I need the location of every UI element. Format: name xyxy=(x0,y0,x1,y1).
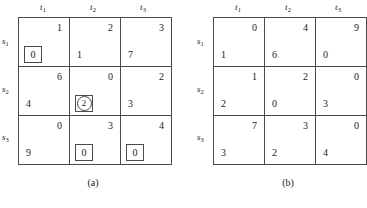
row-header-subscript: 2 xyxy=(6,88,9,95)
matrix-row: 733204 xyxy=(214,116,367,165)
matrix-row: 014690 xyxy=(214,18,367,67)
bottom-cropped-text-artifact xyxy=(6,196,186,207)
matrix-cell-b-r3c1[interactable]: 73 xyxy=(214,116,265,165)
column-header-row-a: t1t2t3 xyxy=(18,0,168,17)
cell-allocation-value: 0 xyxy=(323,49,328,61)
column-header-b-2: t2 xyxy=(263,1,313,16)
matrix-cell-a-r3c3[interactable]: 40 xyxy=(121,116,172,165)
matrix-row: 093040 xyxy=(19,116,172,165)
matrix-row: 640223 xyxy=(19,67,172,116)
cell-cost-value: 0 xyxy=(354,71,359,83)
column-header-row-b: t1t2t3 xyxy=(213,0,363,17)
matrix-cell-a-r2c1[interactable]: 64 xyxy=(19,67,70,116)
row-header-a-3: s3 xyxy=(2,113,18,161)
column-header-subscript: 3 xyxy=(143,6,146,13)
cell-cost-value: 2 xyxy=(303,71,308,83)
column-header-b-1: t1 xyxy=(213,1,263,16)
cell-cost-value: 2 xyxy=(159,71,164,83)
matrix-block-a: t1t2t3s1s2s3102137640223093040(a) xyxy=(0,0,168,162)
matrix-cell-b-r1c3[interactable]: 90 xyxy=(316,18,367,67)
matrix-cell-b-r2c3[interactable]: 03 xyxy=(316,67,367,116)
cell-allocation-value-boxed: 0 xyxy=(24,46,42,63)
cell-allocation-value-boxed: 0 xyxy=(126,144,144,161)
cell-cost-value: 0 xyxy=(108,71,113,83)
cell-allocation-value-boxed: 2 xyxy=(75,95,93,112)
row-header-column-a: s1s2s3 xyxy=(0,17,18,162)
cell-cost-value: 6 xyxy=(57,71,62,83)
row-header-b-2: s2 xyxy=(197,65,213,113)
column-header-a-2: t2 xyxy=(68,1,118,16)
cell-cost-value: 0 xyxy=(354,120,359,132)
cell-cost-value: 0 xyxy=(252,22,257,34)
circled-marker: 2 xyxy=(77,96,92,111)
matrix-cell-a-r1c3[interactable]: 37 xyxy=(121,18,172,67)
cell-allocation-value: 7 xyxy=(128,49,133,61)
cell-cost-value: 1 xyxy=(57,22,62,34)
cell-allocation-value: 4 xyxy=(323,147,328,159)
row-header-column-b: s1s2s3 xyxy=(195,17,213,162)
cell-allocation-value: 1 xyxy=(221,49,226,61)
matrix-cell-b-r1c2[interactable]: 46 xyxy=(265,18,316,67)
matrix-cell-b-r3c3[interactable]: 04 xyxy=(316,116,367,165)
column-header-a-1: t1 xyxy=(18,1,68,16)
matrix-cell-a-r2c2[interactable]: 02 xyxy=(70,67,121,116)
matrix-table-b: 014690122003733204 xyxy=(213,17,367,165)
table-caption-b: (b) xyxy=(213,176,363,189)
row-header-subscript: 3 xyxy=(6,136,9,143)
column-header-subscript: 1 xyxy=(238,6,241,13)
cell-cost-value: 4 xyxy=(303,22,308,34)
column-header-subscript: 1 xyxy=(43,6,46,13)
row-header-b-1: s1 xyxy=(197,17,213,65)
matrix-cell-b-r2c1[interactable]: 12 xyxy=(214,67,265,116)
row-header-a-2: s2 xyxy=(2,65,18,113)
row-header-subscript: 1 xyxy=(6,40,9,47)
cell-cost-value: 1 xyxy=(252,71,257,83)
matrix-cell-a-r1c2[interactable]: 21 xyxy=(70,18,121,67)
cell-cost-value: 7 xyxy=(252,120,257,132)
cell-allocation-value: 1 xyxy=(77,49,82,61)
matrix-cell-b-r3c2[interactable]: 32 xyxy=(265,116,316,165)
cell-cost-value: 3 xyxy=(303,120,308,132)
column-header-subscript: 2 xyxy=(288,6,291,13)
cell-allocation-value: 9 xyxy=(26,147,31,159)
row-header-b-3: s3 xyxy=(197,113,213,161)
table-caption-a: (a) xyxy=(18,176,168,189)
matrix-table-a: 102137640223093040 xyxy=(18,17,172,165)
matrix-cell-b-r1c1[interactable]: 01 xyxy=(214,18,265,67)
row-header-subscript: 2 xyxy=(201,88,204,95)
column-header-subscript: 2 xyxy=(93,6,96,13)
row-header-a-1: s1 xyxy=(2,17,18,65)
cell-cost-value: 0 xyxy=(57,120,62,132)
cell-allocation-value: 2 xyxy=(272,147,277,159)
column-header-b-3: t3 xyxy=(313,1,363,16)
cell-allocation-value: 2 xyxy=(221,98,226,110)
cell-allocation-value: 3 xyxy=(323,98,328,110)
row-header-subscript: 1 xyxy=(201,40,204,47)
matrix-row: 102137 xyxy=(19,18,172,67)
matrix-row: 122003 xyxy=(214,67,367,116)
column-header-subscript: 3 xyxy=(338,6,341,13)
cell-allocation-value: 3 xyxy=(221,147,226,159)
matrix-cell-a-r1c1[interactable]: 10 xyxy=(19,18,70,67)
matrix-grid-a: 102137640223093040 xyxy=(18,17,168,162)
matrix-block-b: t1t2t3s1s2s3014690122003733204(b) xyxy=(195,0,363,162)
cell-allocation-value: 3 xyxy=(128,98,133,110)
cell-allocation-value: 6 xyxy=(272,49,277,61)
cell-allocation-value: 0 xyxy=(272,98,277,110)
matrix-cell-a-r3c2[interactable]: 30 xyxy=(70,116,121,165)
matrix-grid-b: 014690122003733204 xyxy=(213,17,363,162)
cell-allocation-value: 4 xyxy=(26,98,31,110)
row-header-subscript: 3 xyxy=(201,136,204,143)
matrix-cell-a-r3c1[interactable]: 09 xyxy=(19,116,70,165)
cell-cost-value: 3 xyxy=(159,22,164,34)
cell-cost-value: 3 xyxy=(108,120,113,132)
matrix-cell-a-r2c3[interactable]: 23 xyxy=(121,67,172,116)
column-header-a-3: t3 xyxy=(118,1,168,16)
matrix-cell-b-r2c2[interactable]: 20 xyxy=(265,67,316,116)
cell-allocation-value-boxed: 0 xyxy=(75,144,93,161)
cell-cost-value: 2 xyxy=(108,22,113,34)
cell-cost-value: 4 xyxy=(159,120,164,132)
cell-cost-value: 9 xyxy=(354,22,359,34)
